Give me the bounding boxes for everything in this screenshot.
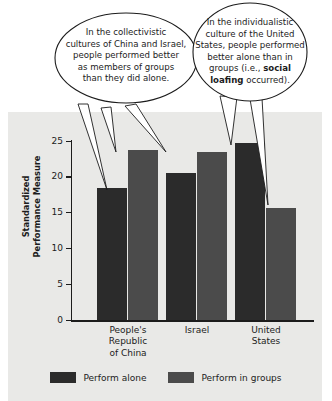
legend-swatch <box>50 372 76 383</box>
legend-item: Perform alone <box>50 372 146 383</box>
chart-figure: Standardized Performance Measure 0510152… <box>0 0 332 401</box>
legend-item: Perform in groups <box>168 372 281 383</box>
callout-line: States, people performed <box>191 40 309 52</box>
callout-line: as members of groups <box>56 62 196 74</box>
callout-line: than they did alone. <box>56 73 196 85</box>
individualistic-callout-tails <box>220 96 268 205</box>
callout-line: culture of the United <box>191 29 309 41</box>
legend-swatch <box>168 372 194 383</box>
collectivistic-callout-text: In the collectivisticcultures of China a… <box>56 27 196 85</box>
callout-line: better alone than in <box>191 52 309 64</box>
callout-line: In the individualistic <box>191 17 309 29</box>
callout-line: cultures of China and Israel, <box>56 39 196 51</box>
callout-line: In the collectivistic <box>56 27 196 39</box>
callout-line: groups (i.e., social <box>191 63 309 75</box>
legend-label: Perform in groups <box>201 373 281 383</box>
chart-legend: Perform alonePerform in groups <box>0 372 332 383</box>
callout-line: people performed better <box>56 50 196 62</box>
collectivistic-callout-tails <box>78 104 166 190</box>
legend-label: Perform alone <box>83 373 146 383</box>
callout-line: loafing occurred). <box>191 75 309 87</box>
individualistic-callout-text: In the individualisticculture of the Uni… <box>191 17 309 87</box>
